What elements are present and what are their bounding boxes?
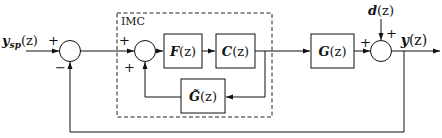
block-g-model-label: G̃(z) (189, 89, 217, 104)
sum2-plus-top: + (119, 33, 130, 48)
block-g-label: G(z) (318, 44, 346, 59)
sum3-plus-left: + (360, 35, 371, 50)
imc-block-diagram: IMC ysp(z) + − + + F(z) C(z) G̃(z) G(z) … (0, 0, 442, 138)
block-f-label: F(z) (169, 44, 196, 59)
output-label: y(z) (400, 32, 427, 48)
sum2-plus-bottom: + (124, 60, 135, 75)
summing-junction-3 (371, 41, 392, 62)
sum3-plus-top: + (386, 26, 397, 41)
imc-label: IMC (121, 15, 145, 28)
disturbance-label: d(z) (368, 3, 394, 18)
sum1-plus-sign: + (48, 33, 59, 48)
input-label: ysp(z) (1, 33, 38, 50)
summing-junction-1 (60, 41, 81, 62)
summing-junction-2 (135, 41, 156, 62)
sum1-minus-sign: − (55, 60, 66, 75)
block-c-label: C(z) (222, 44, 249, 59)
